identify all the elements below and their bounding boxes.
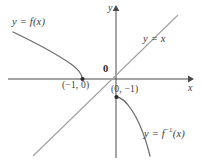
inverse-function-label: y = f−1(x) [144, 127, 185, 139]
y-axis-label: y [108, 3, 113, 13]
identity-line-label: y = x [143, 34, 166, 45]
inverse-label-exponent: −1 [165, 126, 173, 134]
function-label: y = f(x) [12, 17, 45, 28]
origin-label: 0 [103, 64, 108, 75]
y-axis-arrowhead [113, 5, 120, 11]
x-axis-label: x [188, 83, 193, 93]
function-curve [13, 32, 83, 79]
point-zero-minus-one [114, 95, 118, 99]
point-label-zero-minus-one: (0, −1) [111, 85, 138, 95]
graph-figure: y = f(x) y = x y x 0 (−1, 0) (0, −1) y =… [0, 0, 202, 164]
inverse-label-prefix: y = f [144, 128, 165, 139]
point-label-minus-one-zero: (−1, 0) [62, 81, 89, 91]
inverse-label-suffix: (x) [173, 128, 185, 139]
